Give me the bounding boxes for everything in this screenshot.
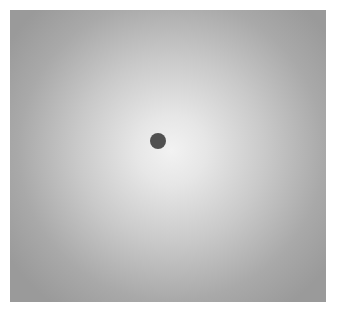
center-dot bbox=[150, 133, 166, 149]
gradient-square bbox=[10, 10, 326, 302]
